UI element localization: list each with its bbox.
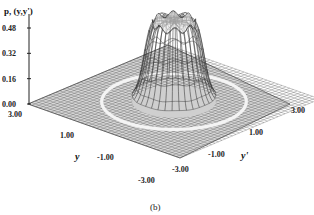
y-tick-label: 1.00	[60, 131, 74, 140]
z-tick-label: 0.00	[2, 100, 16, 109]
y-tick-label: -3.00	[138, 176, 155, 185]
y-prime-tick-label: 1.00	[249, 128, 263, 137]
z-tick-label: 0.32	[2, 49, 16, 58]
figure-caption: (b)	[150, 202, 161, 212]
z-tick-label: 0.48	[2, 24, 16, 33]
z-axis-label: p, (y,y')	[4, 6, 33, 16]
y-prime-axis-name: y'	[240, 150, 248, 161]
y-prime-tick-label: 3.00	[291, 106, 305, 115]
y-tick-label: -1.00	[97, 153, 114, 162]
z-tick-label: 0.16	[2, 75, 16, 84]
y-prime-tick-label: -3.00	[172, 165, 189, 174]
surface-plot: 0.000.160.320.48 p, (y,y') 3.00 1.00 -1.…	[0, 0, 314, 215]
y-tick-label: 3.00	[8, 110, 22, 119]
y-axis-name: y	[74, 151, 80, 162]
y-prime-tick-label: -1.00	[208, 150, 225, 159]
z-axis-ticks: 0.000.160.320.48	[2, 24, 31, 109]
